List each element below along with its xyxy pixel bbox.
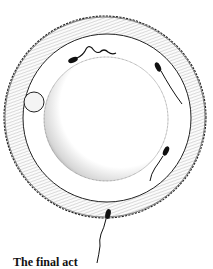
ovum [44,57,168,181]
figure-caption: The final act [13,256,78,268]
polar-body [24,92,44,112]
